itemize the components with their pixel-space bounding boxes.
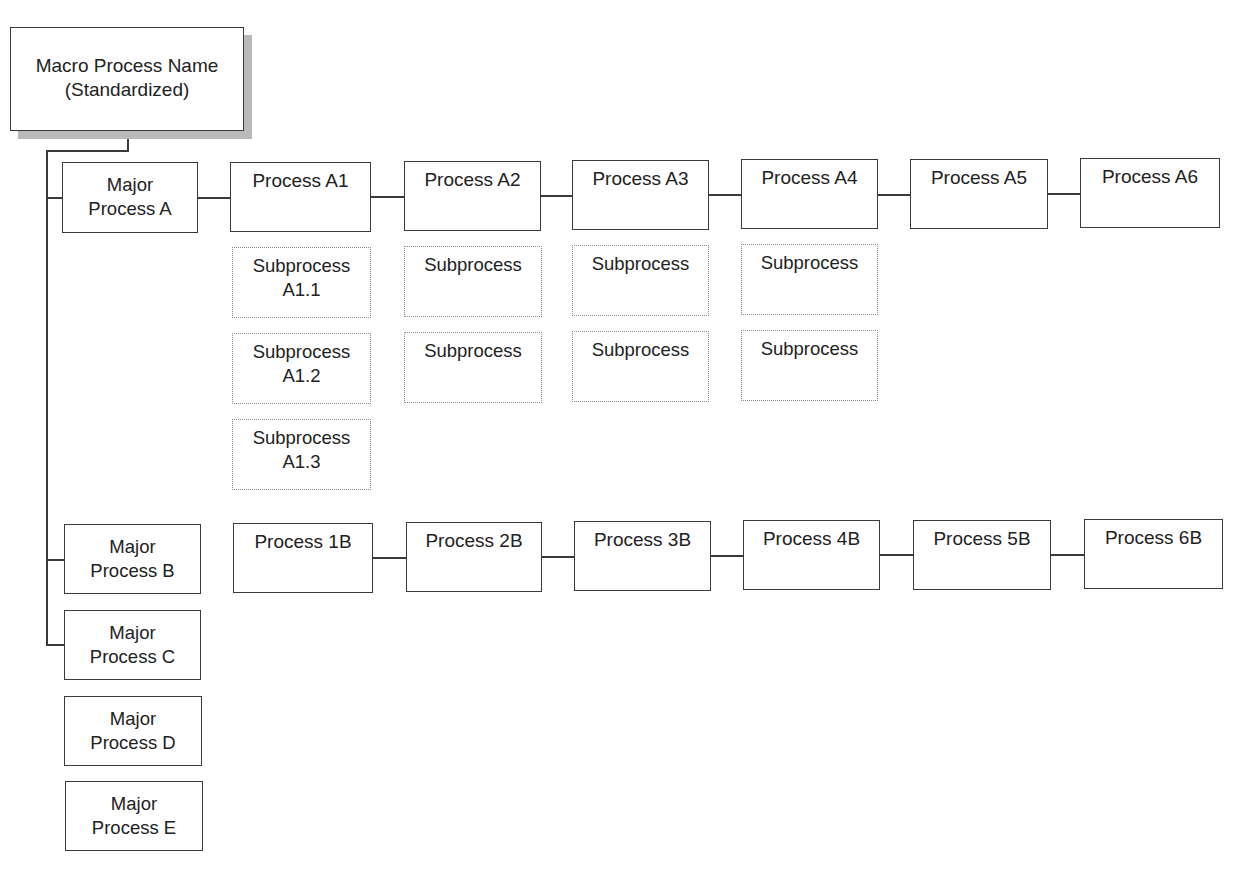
process-a6-box[interactable]: Process A6 [1080,158,1220,228]
subprocess-label: Subprocess [233,426,370,450]
macro-process-title: Macro Process Name [11,54,243,78]
subprocess-label: Subprocess [405,253,541,277]
subprocess-a4-1-box[interactable]: Subprocess [741,244,878,315]
process-label: Process 5B [914,527,1050,551]
subprocess-label: Subprocess [233,254,370,278]
process-2b-box[interactable]: Process 2B [406,522,542,592]
connector-a3-to-a4 [708,194,742,196]
process-5b-box[interactable]: Process 5B [913,520,1051,590]
subprocess-a2-1-box[interactable]: Subprocess [404,246,542,317]
process-label: Process 6B [1085,526,1222,550]
major-process-name: Process C [65,645,200,669]
major-process-label: Major [63,173,197,197]
subprocess-label: Subprocess [573,338,708,362]
process-a5-box[interactable]: Process A5 [910,159,1048,229]
subprocess-label: Subprocess [405,339,541,363]
major-process-name: Process D [65,731,201,755]
process-6b-box[interactable]: Process 6B [1084,519,1223,589]
process-a3-box[interactable]: Process A3 [572,160,709,230]
process-a4-box[interactable]: Process A4 [741,159,878,229]
major-process-d-box[interactable]: Major Process D [64,696,202,766]
major-process-name: Process B [65,559,200,583]
connector-trunk-major-b [46,559,64,561]
major-process-name: Process A [63,197,197,221]
process-4b-box[interactable]: Process 4B [743,520,880,590]
macro-process-subtitle: (Standardized) [11,78,243,102]
process-label: Process A2 [405,168,540,192]
process-a1-box[interactable]: Process A1 [230,162,371,232]
subprocess-a1-1-box[interactable]: Subprocess A1.1 [232,247,371,318]
connector-4b-to-5b [879,554,914,556]
process-a2-box[interactable]: Process A2 [404,161,541,231]
process-3b-box[interactable]: Process 3B [574,521,711,591]
subprocess-label: Subprocess [742,251,877,275]
major-process-label: Major [66,792,202,816]
connector-a4-to-a5 [877,194,911,196]
connector-macro-to-trunk [46,150,129,152]
connector-2b-to-3b [541,556,575,558]
subprocess-a1-3-box[interactable]: Subprocess A1.3 [232,419,371,490]
connector-trunk-major-a [46,197,63,199]
subprocess-id: A1.3 [233,450,370,474]
connector-trunk [46,150,48,645]
macro-process-box[interactable]: Macro Process Name (Standardized) [10,27,244,131]
connector-5b-to-6b [1050,554,1085,556]
major-process-e-box[interactable]: Major Process E [65,781,203,851]
connector-1b-to-2b [372,557,407,559]
subprocess-id: A1.2 [233,364,370,388]
connector-major-a-to-a1 [197,197,231,199]
process-label: Process 2B [407,529,541,553]
connector-3b-to-4b [710,555,744,557]
subprocess-a2-2-box[interactable]: Subprocess [404,332,542,403]
process-label: Process 3B [575,528,710,552]
major-process-c-box[interactable]: Major Process C [64,610,201,680]
major-process-label: Major [65,621,200,645]
process-label: Process 4B [744,527,879,551]
process-1b-box[interactable]: Process 1B [233,523,373,593]
major-process-a-box[interactable]: Major Process A [62,162,198,233]
process-label: Process A4 [742,166,877,190]
process-label: Process A5 [911,166,1047,190]
major-process-b-box[interactable]: Major Process B [64,524,201,594]
major-process-label: Major [65,707,201,731]
connector-a2-to-a3 [540,195,573,197]
process-label: Process A1 [231,169,370,193]
subprocess-label: Subprocess [233,340,370,364]
major-process-name: Process E [66,816,202,840]
connector-macro-down [127,130,129,151]
connector-trunk-major-c [46,644,64,646]
connector-a5-to-a6 [1047,193,1081,195]
subprocess-id: A1.1 [233,278,370,302]
process-label: Process 1B [234,530,372,554]
connector-a1-to-a2 [370,196,405,198]
subprocess-a4-2-box[interactable]: Subprocess [741,330,878,401]
subprocess-label: Subprocess [573,252,708,276]
subprocess-a1-2-box[interactable]: Subprocess A1.2 [232,333,371,404]
subprocess-a3-2-box[interactable]: Subprocess [572,331,709,402]
major-process-label: Major [65,535,200,559]
process-label: Process A6 [1081,165,1219,189]
subprocess-a3-1-box[interactable]: Subprocess [572,245,709,316]
process-label: Process A3 [573,167,708,191]
subprocess-label: Subprocess [742,337,877,361]
